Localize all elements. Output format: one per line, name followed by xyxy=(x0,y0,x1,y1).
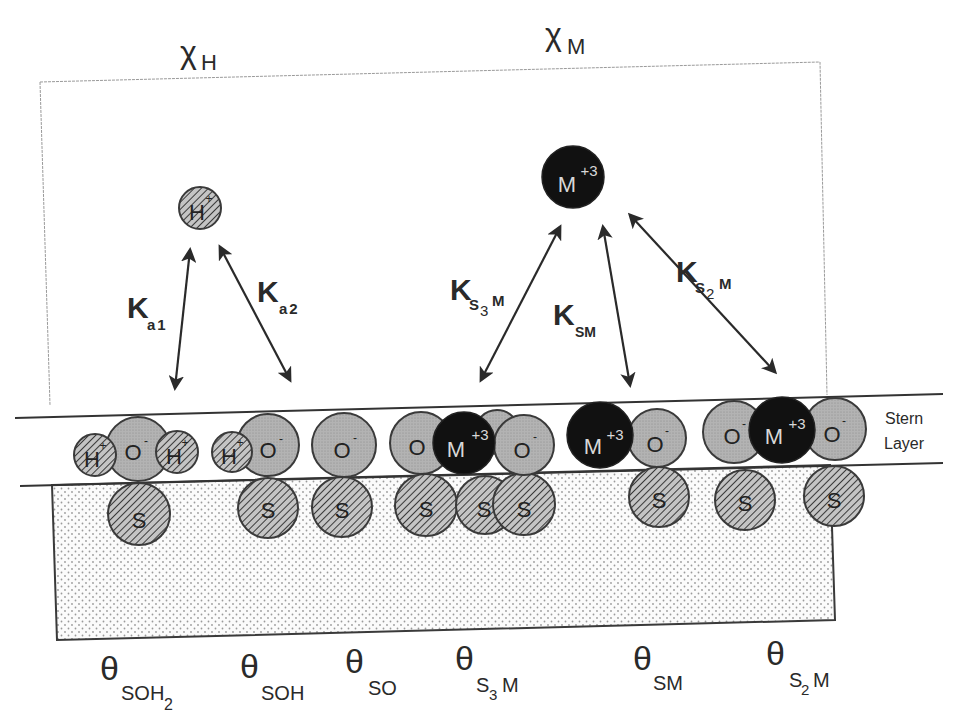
ksm-arrow-icon xyxy=(603,227,630,385)
svg-text:SOH: SOH xyxy=(261,682,304,704)
svg-text:M: M xyxy=(584,434,602,459)
svg-text:H: H xyxy=(221,444,237,469)
box-outline xyxy=(40,62,827,395)
svg-text:+: + xyxy=(236,436,243,450)
svg-text:+3: +3 xyxy=(788,415,805,432)
svg-text:2: 2 xyxy=(164,696,173,713)
solution-box xyxy=(40,62,827,405)
svg-text:-: - xyxy=(279,432,283,446)
svg-text:θ: θ xyxy=(633,639,652,677)
svg-text:Layer: Layer xyxy=(884,435,925,452)
svg-text:+: + xyxy=(205,192,212,206)
svg-text:K: K xyxy=(257,275,279,308)
svg-text:O: O xyxy=(333,438,350,463)
svg-text:M: M xyxy=(502,674,519,696)
svg-text:θ: θ xyxy=(345,642,364,680)
theta-s3m-label: θ S 3 M xyxy=(455,639,519,703)
svg-text:2: 2 xyxy=(706,285,714,302)
ksm-label: K SM xyxy=(553,298,596,340)
svg-text:+3: +3 xyxy=(580,162,597,179)
svg-text:M: M xyxy=(447,437,465,462)
svg-text:S: S xyxy=(261,498,276,523)
species-s3m: S S S O O - M +3 xyxy=(390,410,555,536)
svg-text:S: S xyxy=(469,296,479,313)
svg-text:S: S xyxy=(652,488,667,513)
theta-soh-label: θ SOH xyxy=(240,647,304,704)
svg-text:S: S xyxy=(827,488,842,513)
svg-text:K: K xyxy=(553,298,575,331)
svg-text:S: S xyxy=(738,491,753,516)
svg-text:-: - xyxy=(842,414,846,428)
theta-sm-label: θ SM xyxy=(633,639,683,694)
svg-text:M: M xyxy=(719,275,732,292)
svg-text:S: S xyxy=(132,508,147,533)
svg-text:M: M xyxy=(765,424,783,449)
svg-text:M: M xyxy=(492,292,505,309)
svg-text:-: - xyxy=(665,424,669,438)
species-so: S O - xyxy=(312,413,376,537)
svg-text:Stern: Stern xyxy=(885,410,923,427)
svg-text:M: M xyxy=(813,669,830,691)
svg-text:SM: SM xyxy=(575,324,596,340)
svg-text:θ: θ xyxy=(100,649,119,687)
svg-text:K: K xyxy=(127,291,149,324)
svg-text:SOH: SOH xyxy=(121,682,164,704)
svg-text:+: + xyxy=(99,439,106,453)
svg-text:S: S xyxy=(335,498,350,523)
theta-s2m-label: θ S 2 M xyxy=(766,634,830,698)
box-left-edge xyxy=(40,82,50,405)
svg-text:S: S xyxy=(517,497,532,522)
svg-text:SM: SM xyxy=(653,672,683,694)
svg-text:a2: a2 xyxy=(279,300,300,317)
svg-text:-: - xyxy=(533,430,537,444)
ks3m-label: K S 3 M xyxy=(450,273,505,319)
svg-text:O: O xyxy=(646,432,663,457)
svg-text:-: - xyxy=(144,434,148,448)
stern-layer-label: Stern Layer xyxy=(884,410,925,452)
svg-text:+3: +3 xyxy=(471,426,488,443)
svg-text:-: - xyxy=(742,417,746,431)
ka2-label: K a2 xyxy=(257,275,300,317)
ka1-arrow-icon xyxy=(175,250,190,388)
free-metal-ion: M +3 xyxy=(542,146,604,208)
svg-text:χ: χ xyxy=(180,34,197,70)
svg-text:a1: a1 xyxy=(147,316,168,333)
svg-text:O: O xyxy=(408,435,425,460)
svg-text:O: O xyxy=(124,440,141,465)
svg-text:+3: +3 xyxy=(606,426,623,443)
svg-text:2: 2 xyxy=(801,681,809,698)
svg-text:θ: θ xyxy=(240,647,259,685)
svg-text:θ: θ xyxy=(455,639,474,677)
svg-text:θ: θ xyxy=(766,634,785,672)
svg-text:3: 3 xyxy=(489,686,497,703)
svg-text:O: O xyxy=(259,438,276,463)
theta-so-label: θ SO xyxy=(345,642,397,699)
svg-text:S: S xyxy=(419,497,434,522)
surface-complexation-diagram: χ H χ M H + M +3 K a1 K a2 K S 3 M K xyxy=(0,0,963,727)
svg-text:H: H xyxy=(201,50,217,75)
svg-text:S: S xyxy=(476,674,489,696)
svg-text:SO: SO xyxy=(368,677,397,699)
svg-text:O: O xyxy=(723,424,740,449)
svg-text:M: M xyxy=(558,172,576,197)
svg-text:O: O xyxy=(823,422,840,447)
ka1-label: K a1 xyxy=(127,291,168,333)
svg-text:-: - xyxy=(353,431,357,445)
svg-text:H: H xyxy=(189,200,205,225)
svg-text:+: + xyxy=(181,436,188,450)
svg-text:S: S xyxy=(695,279,705,296)
chi-h-label: χ H xyxy=(180,34,217,75)
ks2m-label: K S 2 M xyxy=(676,255,732,302)
svg-text:χ: χ xyxy=(545,16,562,52)
svg-text:O: O xyxy=(513,438,530,463)
svg-text:H: H xyxy=(84,447,100,472)
svg-text:S: S xyxy=(477,497,492,522)
theta-soh2-label: θ SOH 2 xyxy=(100,649,173,713)
free-proton: H + xyxy=(179,187,221,229)
svg-text:H: H xyxy=(166,444,182,469)
chi-m-label: χ M xyxy=(545,16,585,59)
svg-text:3: 3 xyxy=(480,302,488,319)
svg-text:M: M xyxy=(567,34,585,59)
